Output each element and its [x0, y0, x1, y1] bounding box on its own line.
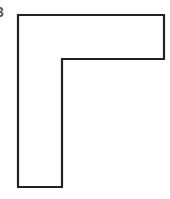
- l-shape-outline: [18, 15, 164, 187]
- l-shape-diagram: [0, 0, 170, 199]
